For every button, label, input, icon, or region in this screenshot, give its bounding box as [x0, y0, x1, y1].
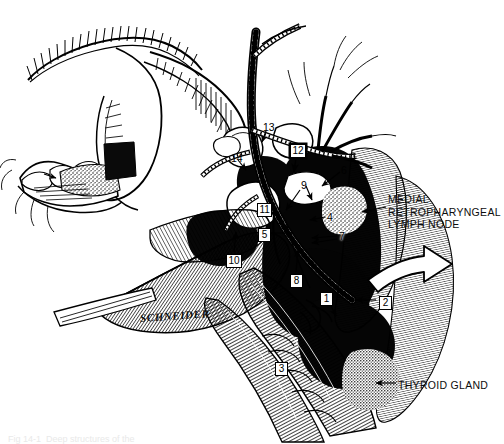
- callout-8: 8: [290, 274, 303, 288]
- callout-5: 5: [258, 228, 271, 242]
- anatomical-figure: MEDIAL RETROPHARYNGEAL LYMPH NODE THYROI…: [0, 0, 504, 444]
- callout-14: 14: [231, 152, 243, 164]
- callout-3: 3: [275, 362, 288, 376]
- callout-2: 2: [379, 296, 392, 310]
- callout-1: 1: [320, 292, 333, 306]
- callout-9: 9: [301, 179, 307, 191]
- callout-10: 10: [226, 254, 242, 268]
- label-medial-retropharyngeal-lymph-node: MEDIAL RETROPHARYNGEAL LYMPH NODE: [388, 193, 501, 231]
- figure-caption: Fig 14-1 Deep structures of the: [8, 434, 135, 444]
- callout-6: 6: [341, 164, 347, 176]
- callout-12: 12: [290, 144, 306, 158]
- callout-11: 11: [257, 203, 272, 217]
- callout-7: 7: [339, 230, 345, 242]
- callout-4: 4: [327, 211, 333, 223]
- label-thyroid-gland: THYROID GLAND: [398, 379, 488, 392]
- callout-13: 13: [263, 121, 275, 133]
